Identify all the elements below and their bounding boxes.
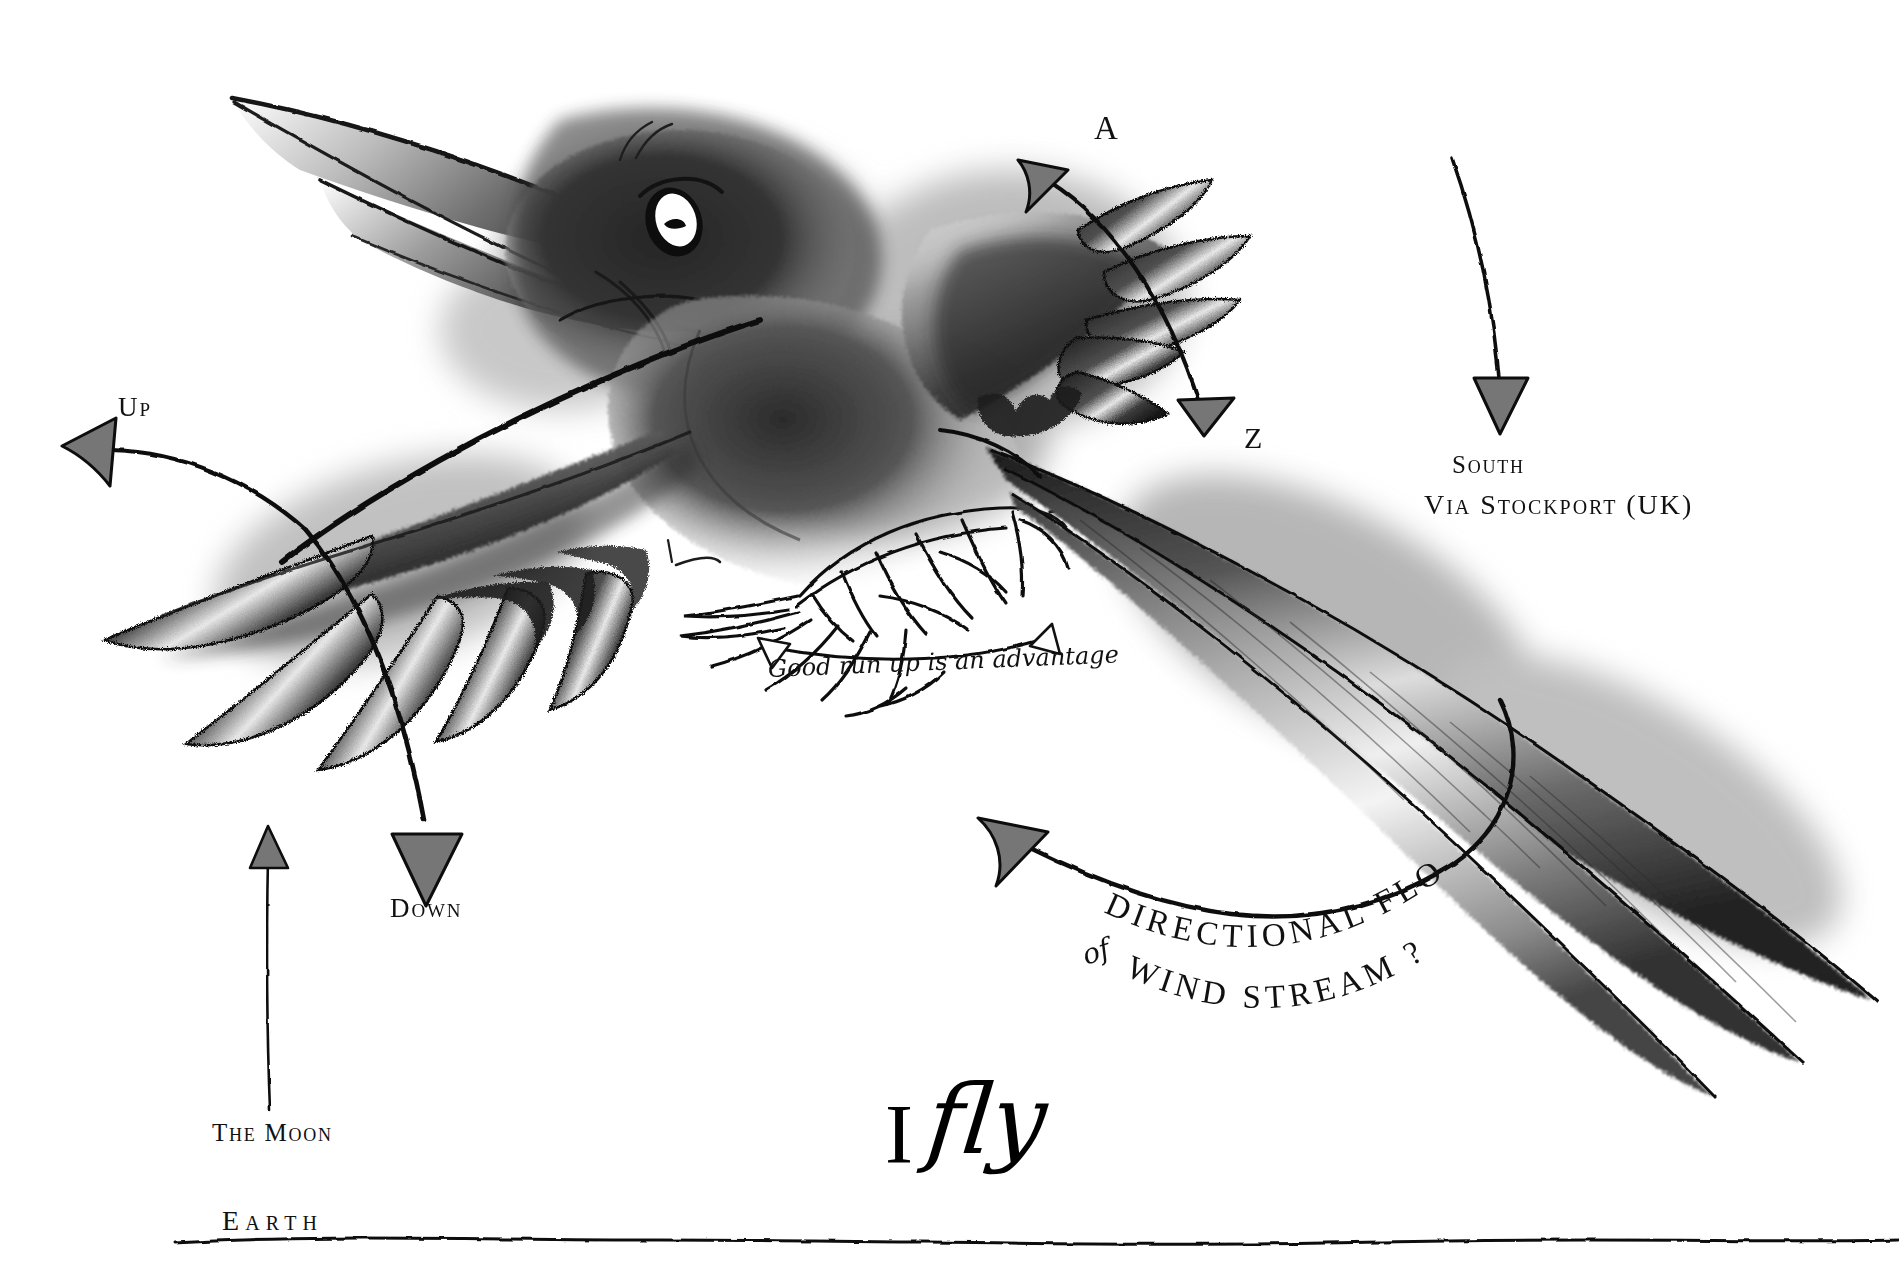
wind-stream-of: of (1078, 930, 1118, 971)
moon-arrow (250, 826, 288, 1110)
label-earth: Earth (222, 1205, 323, 1237)
moon-arrow-head (250, 826, 288, 868)
belly-tick-2 (668, 540, 672, 562)
up-arrow (62, 418, 306, 530)
south-arrow-head (1474, 378, 1528, 434)
earth-horizon-line (175, 1238, 1899, 1244)
label-up: Up (118, 392, 152, 423)
label-via-stockport: Via Stockport (UK) (1424, 489, 1693, 521)
signature-initial: I (885, 1093, 913, 1177)
label-a: A (1094, 110, 1118, 147)
up-arrow-head (62, 418, 116, 486)
signature-i-fly: Ifly (885, 1072, 1041, 1177)
belly-tick (676, 558, 720, 565)
z-arrow-head (1178, 398, 1234, 436)
moon-arrow-shaft (267, 856, 270, 1110)
bird-figure (104, 98, 1885, 1098)
south-arrow-shaft (1452, 158, 1500, 390)
label-the-moon: The Moon (212, 1119, 333, 1147)
artwork-canvas: DIRECTIONAL FLOW WIND STREAM ? of Up Dow… (0, 0, 1899, 1284)
south-arrow (1452, 158, 1528, 434)
label-down: Down (390, 893, 462, 924)
label-south: South (1452, 451, 1525, 479)
label-z: Z (1244, 421, 1262, 455)
signature-word: fly (923, 1072, 1051, 1168)
